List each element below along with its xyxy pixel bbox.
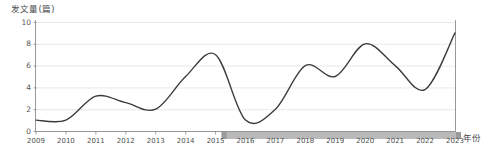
plot-area: 0246810 20092010201120122013201420152016… bbox=[0, 0, 498, 158]
line-chart-figure: 发文量(篇) 年份 0246810 2009201020112012201320… bbox=[0, 0, 498, 158]
y-axis-tick-labels: 0246810 bbox=[21, 18, 31, 136]
x-axis-tick-label: 2015 bbox=[207, 137, 225, 145]
x-axis-tick-label: 2010 bbox=[57, 137, 75, 145]
x-axis-tick-label: 2019 bbox=[326, 137, 344, 145]
x-axis-tick-label: 2016 bbox=[237, 137, 255, 145]
x-axis-tick-label: 2009 bbox=[27, 137, 45, 145]
x-axis-tick-label: 2014 bbox=[177, 137, 195, 145]
x-axis-tick-label: 2017 bbox=[267, 137, 285, 145]
x-axis-tick-labels: 2009201020112012201320142015201620172018… bbox=[27, 137, 464, 145]
y-axis-tick-label: 6 bbox=[26, 61, 31, 70]
x-axis-tick-label: 2021 bbox=[386, 137, 404, 145]
x-axis-tick-label: 2012 bbox=[117, 137, 135, 145]
y-axis-tick-marks bbox=[34, 23, 37, 132]
x-axis-tick-label: 2013 bbox=[147, 137, 165, 145]
x-axis-tick-label: 2022 bbox=[416, 137, 434, 145]
x-axis-tick-label: 2011 bbox=[87, 137, 105, 145]
x-axis-tick-label: 2018 bbox=[296, 137, 314, 145]
y-axis-tick-label: 2 bbox=[26, 105, 31, 114]
y-axis-tick-label: 0 bbox=[26, 127, 31, 136]
x-axis-tick-label: 2023 bbox=[446, 137, 464, 145]
y-axis-tick-label: 4 bbox=[26, 83, 31, 92]
y-axis-tick-label: 8 bbox=[26, 39, 31, 48]
gridlines bbox=[36, 23, 455, 132]
y-axis-tick-label: 10 bbox=[21, 18, 31, 27]
x-axis-tick-label: 2020 bbox=[356, 137, 374, 145]
